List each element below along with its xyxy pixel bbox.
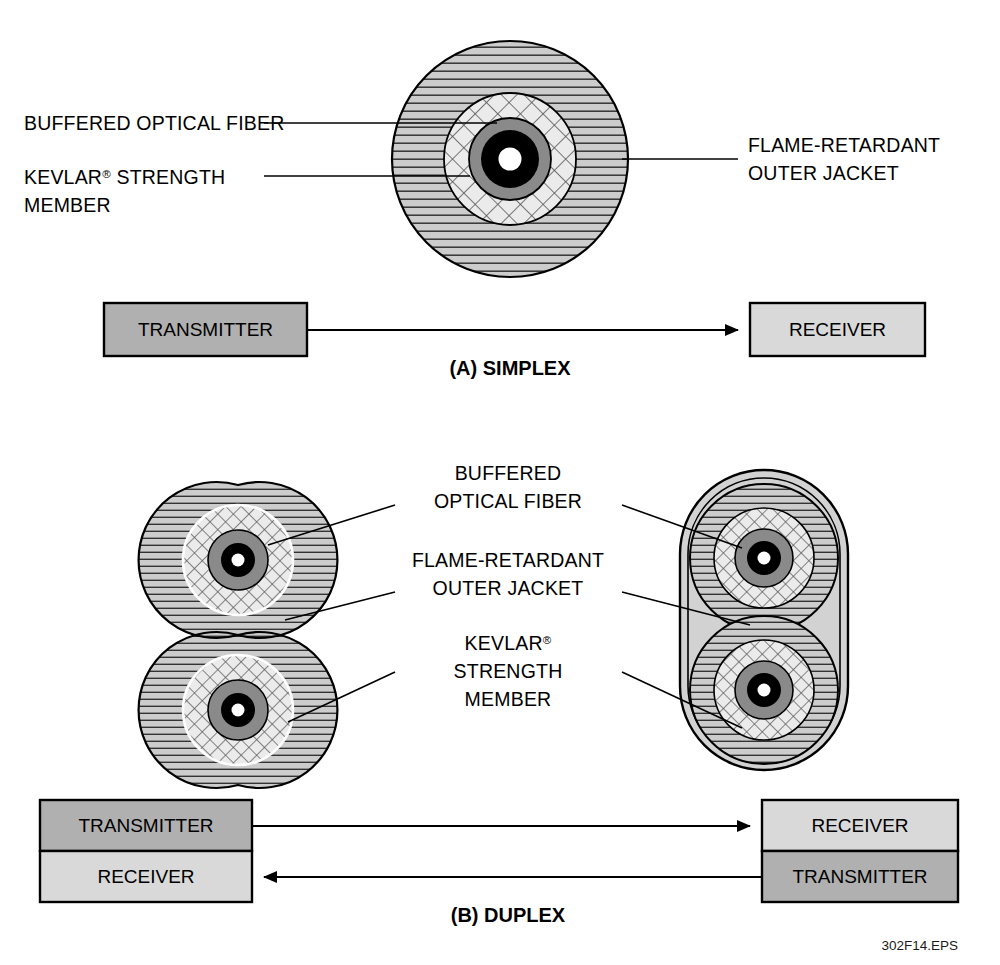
label-kevlar-registered: ®	[102, 168, 111, 180]
label-strength-word: STRENGTH	[111, 166, 225, 188]
simplex-receiver-box: RECEIVER	[750, 303, 925, 356]
duplex-zipcord-cable	[139, 482, 338, 788]
caption-simplex: (A) SIMPLEX	[449, 357, 571, 379]
label-duplex-jacket-1: FLAME-RETARDANT	[412, 549, 604, 571]
label-kevlar-word: KEVLAR	[24, 166, 102, 188]
label-duplex-buffered-1: BUFFERED	[455, 462, 562, 484]
label-duplex-kevlar-registered: ®	[543, 634, 552, 646]
simplex-receiver-label: RECEIVER	[789, 319, 886, 340]
label-flame-retardant-1: FLAME-RETARDANT	[748, 134, 940, 156]
label-duplex-jacket-2: OUTER JACKET	[433, 577, 584, 599]
oval-core-lower	[758, 684, 771, 697]
label-kevlar-member: MEMBER	[24, 194, 111, 216]
duplex-left-stack: TRANSMITTER RECEIVER	[40, 800, 252, 902]
label-duplex-kevlar-1: KEVLAR®	[465, 632, 552, 654]
fiber-optic-cable-figure: BUFFERED OPTICAL FIBER KEVLAR® STRENGTH …	[0, 0, 1000, 965]
zipcord-core-upper	[232, 554, 245, 567]
simplex-cable-cross-section	[392, 41, 628, 277]
simplex-fiber-core	[499, 148, 522, 171]
label-duplex-buffered-2: OPTICAL FIBER	[434, 490, 582, 512]
oval-core-upper	[758, 552, 771, 565]
caption-duplex: (B) DUPLEX	[451, 904, 566, 926]
zipcord-core-lower	[232, 704, 245, 717]
label-duplex-kevlar-word: KEVLAR	[465, 632, 543, 654]
duplex-left-transmitter-label: TRANSMITTER	[78, 815, 213, 836]
label-duplex-kevlar-3: MEMBER	[465, 688, 552, 710]
duplex-left-receiver-label: RECEIVER	[97, 866, 194, 887]
duplex-right-receiver-label: RECEIVER	[811, 815, 908, 836]
duplex-right-stack: RECEIVER TRANSMITTER	[762, 800, 958, 902]
label-buffered-optical-fiber: BUFFERED OPTICAL FIBER	[24, 112, 284, 134]
figure-id-footer: 302F14.EPS	[881, 938, 958, 953]
simplex-transmitter-box: TRANSMITTER	[104, 303, 307, 356]
simplex-transmitter-label: TRANSMITTER	[138, 319, 273, 340]
duplex-right-transmitter-label: TRANSMITTER	[792, 866, 927, 887]
label-duplex-kevlar-2: STRENGTH	[454, 660, 563, 682]
label-kevlar-strength: KEVLAR® STRENGTH	[24, 166, 225, 188]
label-flame-retardant-2: OUTER JACKET	[748, 162, 899, 184]
duplex-oval-cable	[680, 470, 848, 770]
